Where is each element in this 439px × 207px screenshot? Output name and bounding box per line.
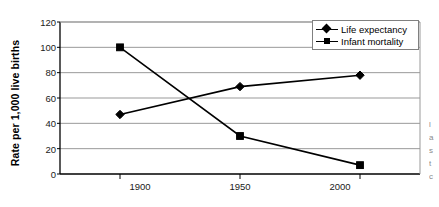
series-line [120,75,360,114]
square-marker-icon [357,162,364,169]
square-marker-icon [117,44,124,51]
square-marker-icon [237,133,244,140]
x-axis-ticks [120,174,360,179]
legend-label: Life expectancy [339,24,407,35]
margin-text-line: t [429,157,439,170]
diamond-marker-icon [236,82,244,90]
cropped-margin-text: l a s t c [429,118,439,183]
margin-text-line: a [429,131,439,144]
margin-text-line: l [429,118,439,131]
chart-figure: Rate per 1,000 live births 120 100 80 60… [0,0,439,207]
legend-item-infant-mortality: Infant mortality [315,35,415,47]
legend-label: Infant mortality [339,36,403,47]
margin-text-line: c [429,170,439,183]
legend-item-life-expectancy: Life expectancy [315,23,415,35]
data-series-layer [116,44,364,169]
chart-legend: Life expectancy Infant mortality [312,20,419,50]
diamond-marker-icon [116,110,124,118]
margin-text-line: s [429,144,439,157]
square-marker-icon [315,36,339,47]
diamond-marker-icon [315,24,339,35]
